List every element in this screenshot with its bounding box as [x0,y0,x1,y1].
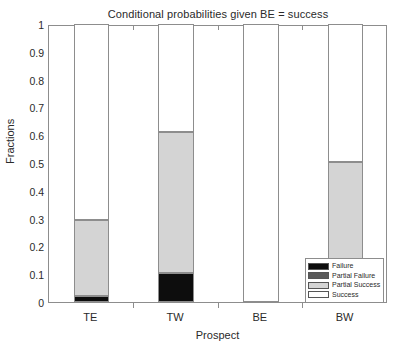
legend-item-label: Partial Success [332,281,380,289]
bar-group-be[interactable] [243,24,279,302]
chart-title: Conditional probabilities given BE = suc… [48,8,388,20]
legend-swatch-icon [308,282,329,289]
bar-segment-te-success[interactable] [74,24,110,220]
legend-swatch-icon [308,263,329,270]
legend-swatch-icon [308,291,329,298]
y-tick-label: 0.6 [29,130,44,142]
y-tick-label: 0.3 [29,214,44,226]
y-tick-label: 0.7 [29,102,44,114]
bar-segment-te-failure[interactable] [74,296,110,302]
y-tick-label: 0.9 [29,47,44,59]
legend-item-partial-success[interactable]: Partial Success [308,281,381,290]
bar-segment-tw-partial-success[interactable] [158,132,194,272]
bar-group-te[interactable] [74,24,110,302]
x-tick-mark [302,303,303,308]
bar-segment-te-partial-success[interactable] [74,220,110,296]
legend-item-label: Success [332,291,358,299]
legend-item-label: Failure [332,262,353,270]
y-tick-label: 0.2 [29,241,44,253]
x-tick-mark [133,303,134,308]
x-tick-mark [218,25,219,30]
x-tick-label-bw: BW [336,311,354,323]
legend-item-failure[interactable]: Failure [308,262,381,271]
x-tick-mark [133,25,134,30]
bar-segment-tw-failure[interactable] [158,273,194,302]
x-tick-label-tw: TW [167,311,184,323]
legend-swatch-icon [308,272,329,279]
x-tick-mark [218,303,219,308]
legend-item-label: Partial Failure [332,272,375,280]
x-axis-label: Prospect [48,329,387,341]
y-tick-label: 0.4 [29,186,44,198]
y-tick-label: 0.8 [29,75,44,87]
legend-item-partial-failure[interactable]: Partial Failure [308,271,381,280]
y-tick-label: 0.5 [29,158,44,170]
y-tick-label: 0.1 [29,269,44,281]
bar-segment-bw-success[interactable] [328,24,364,162]
x-tick-mark [302,25,303,30]
y-tick-label: 0 [38,297,44,309]
bar-group-tw[interactable] [158,24,194,302]
legend-item-success[interactable]: Success [308,290,381,299]
y-tick-label: 1 [38,19,44,31]
bar-segment-be-success[interactable] [243,24,279,302]
chart-legend: FailurePartial FailurePartial SuccessSuc… [305,258,384,303]
x-tick-label-te: TE [83,311,97,323]
figure-canvas: Conditional probabilities given BE = suc… [0,0,403,348]
x-tick-label-be: BE [253,311,268,323]
bar-segment-tw-success[interactable] [158,24,194,132]
y-axis-label: Fractions [4,119,16,164]
